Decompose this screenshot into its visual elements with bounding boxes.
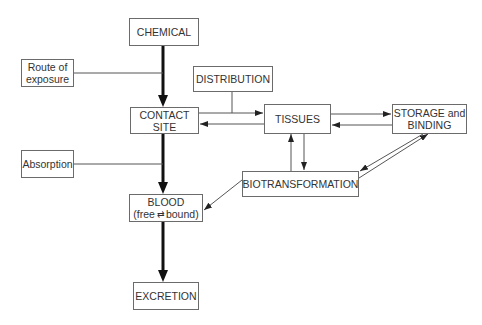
blood-free-label: (free <box>133 208 155 220</box>
node-storage-line2: BINDING <box>408 119 452 131</box>
node-contact-line1: CONTACT <box>140 109 190 121</box>
node-route-line2: exposure <box>26 73 69 85</box>
equilibrium-arrows-icon: ⇄ <box>157 208 164 220</box>
node-absorption-label: Absorption <box>22 158 72 170</box>
node-biotransformation-label: BIOTRANSFORMATION <box>243 178 359 190</box>
node-chemical-label: CHEMICAL <box>137 26 191 38</box>
node-storage-line1: STORAGE and <box>394 107 466 119</box>
node-distribution-label: DISTRIBUTION <box>196 73 270 85</box>
node-excretion-label: EXCRETION <box>135 290 196 302</box>
node-storage-and-binding: STORAGE and BINDING <box>392 104 467 134</box>
blood-bound-label: bound) <box>166 208 199 220</box>
node-blood: BLOOD (free ⇄ bound) <box>129 194 203 222</box>
node-blood-line2: (free ⇄ bound) <box>133 208 198 220</box>
node-absorption: Absorption <box>21 150 74 178</box>
node-blood-line1: BLOOD <box>148 196 185 208</box>
node-tissues-label: TISSUES <box>275 113 320 125</box>
node-contact-line2: SITE <box>153 121 176 133</box>
node-tissues: TISSUES <box>264 104 331 134</box>
node-route-line1: Route of <box>28 61 68 73</box>
node-excretion: EXCRETION <box>133 282 199 310</box>
node-chemical: CHEMICAL <box>129 18 199 46</box>
node-biotransformation: BIOTRANSFORMATION <box>242 171 359 197</box>
node-route-of-exposure: Route of exposure <box>21 59 74 87</box>
node-contact-site: CONTACT SITE <box>130 107 199 134</box>
node-distribution: DISTRIBUTION <box>193 66 273 92</box>
